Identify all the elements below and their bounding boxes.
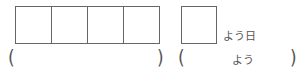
left-open-bracket: ( xyxy=(8,46,15,68)
day-answer-box[interactable] xyxy=(181,6,217,44)
answer-box-1[interactable] xyxy=(15,6,52,44)
reading-hint: よう xyxy=(232,51,254,67)
left-close-bracket: ) xyxy=(157,46,164,68)
answer-box-4[interactable] xyxy=(123,6,160,44)
answer-box-2[interactable] xyxy=(51,6,88,44)
right-close-bracket: ) xyxy=(290,46,297,68)
right-open-bracket: ( xyxy=(178,46,185,68)
answer-box-3[interactable] xyxy=(87,6,124,44)
answer-box-row xyxy=(15,6,160,44)
day-suffix-label: よう日 xyxy=(223,27,256,43)
